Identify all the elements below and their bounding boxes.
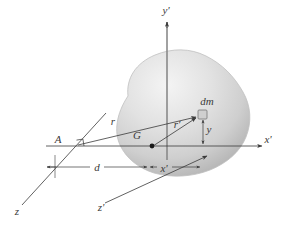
- centroid-dot: [150, 144, 155, 149]
- axis-z: [22, 113, 106, 205]
- mass-element-square: [198, 110, 207, 119]
- mass-element: [198, 110, 207, 119]
- mass-element-label: dm: [200, 95, 214, 107]
- mechanics-figure: y' x' z' z G A dm r r' d x' y: [0, 0, 284, 229]
- axis-label-y-prime: y': [161, 4, 170, 16]
- dimension-label-y: y: [206, 123, 212, 135]
- dimension-label-x-prime: x': [159, 162, 168, 174]
- rigid-body-outline: [117, 50, 250, 176]
- axis-label-z-prime: z': [97, 201, 105, 213]
- dimension-label-r: r: [111, 115, 116, 127]
- axis-label-x-prime: x': [263, 133, 272, 145]
- rigid-body: [117, 50, 250, 176]
- axis-label-z: z: [14, 205, 20, 217]
- point-centroid: [150, 144, 155, 149]
- dimension-label-d: d: [94, 161, 100, 173]
- dimension-label-r-prime: r': [174, 118, 181, 130]
- axis-z-line: [22, 113, 106, 205]
- point-label-reference: A: [54, 133, 62, 145]
- figure-canvas: y' x' z' z G A dm r r' d x' y: [0, 0, 284, 229]
- point-label-centroid: G: [133, 129, 141, 141]
